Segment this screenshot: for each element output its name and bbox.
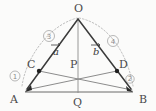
segment-B-C	[39, 71, 132, 90]
circled-mark-2: 2	[126, 75, 134, 84]
label-point-O: O	[74, 2, 83, 15]
label-point-C: C	[27, 58, 35, 71]
circled-mark-4-label: 4	[111, 38, 116, 46]
label-point-D: D	[119, 58, 128, 71]
circled-mark-3-label: 3	[47, 33, 51, 41]
point-dot-C	[37, 69, 41, 73]
label-point-B: B	[139, 93, 147, 106]
circled-mark-1: 1	[10, 71, 20, 81]
circled-mark-1-label: 1	[13, 73, 17, 81]
geometry-figure-canvas: O A B C D P Q a b 1 2 3 4	[0, 0, 156, 111]
right-dotted-arc	[79, 18, 133, 86]
label-point-P: P	[70, 58, 78, 71]
left-dotted-arc	[22, 18, 77, 86]
circled-mark-2-label: 2	[128, 75, 132, 83]
label-point-A: A	[9, 93, 19, 106]
label-vector-a: a	[53, 46, 59, 57]
circled-mark-3: 3	[44, 31, 55, 42]
geometry-diagram: O A B C D P Q a b 1 2 3 4	[0, 0, 156, 111]
label-point-Q: Q	[73, 96, 82, 109]
circled-mark-4: 4	[108, 36, 119, 47]
label-vector-b: b	[93, 46, 99, 57]
segment-A-D	[26, 71, 117, 90]
segment-O-B	[78, 19, 131, 89]
